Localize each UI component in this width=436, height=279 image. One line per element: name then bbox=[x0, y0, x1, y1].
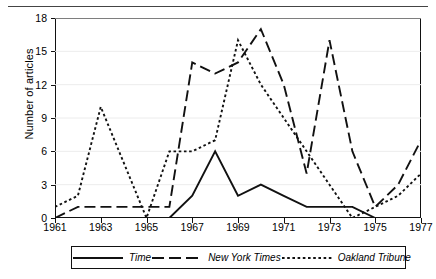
x-tick-label: 1977 bbox=[401, 222, 436, 233]
x-tick-mark bbox=[192, 218, 193, 223]
long-dash-line-swatch bbox=[151, 253, 203, 263]
solid-line-swatch bbox=[72, 253, 124, 263]
y-tick-label: 15 bbox=[21, 46, 47, 56]
x-tick-mark bbox=[330, 218, 331, 223]
x-tick-label: 1963 bbox=[81, 222, 121, 233]
dotted-line-swatch bbox=[281, 253, 333, 263]
x-tick-mark bbox=[375, 218, 376, 223]
series-line-oakland-tribune bbox=[55, 40, 421, 218]
legend-label-oakland-tribune: Oakland Tribune bbox=[338, 252, 411, 263]
legend-entry-new-york-times: New York Times bbox=[151, 252, 281, 263]
x-tick-mark bbox=[238, 218, 239, 223]
y-tick-label: 18 bbox=[21, 13, 47, 23]
x-tick-label: 1975 bbox=[355, 222, 395, 233]
x-tick-label: 1967 bbox=[172, 222, 212, 233]
plot-lines bbox=[55, 18, 421, 218]
series-line-new-york-times bbox=[55, 29, 421, 218]
chart-legend: Time New York Times Oakland Tribune bbox=[71, 246, 406, 269]
legend-label-time: Time bbox=[129, 252, 151, 263]
x-tick-mark bbox=[101, 218, 102, 223]
x-tick-mark bbox=[147, 218, 148, 223]
top-divider-rule bbox=[8, 6, 428, 7]
chart-figure: Number of articles 0369121518 1961196319… bbox=[0, 0, 436, 279]
legend-entry-time: Time bbox=[72, 252, 151, 263]
y-tick-label: 3 bbox=[21, 180, 47, 190]
x-tick-label: 1969 bbox=[218, 222, 258, 233]
y-tick-label: 6 bbox=[21, 146, 47, 156]
y-tick-label: 12 bbox=[21, 80, 47, 90]
x-tick-label: 1961 bbox=[35, 222, 75, 233]
x-tick-label: 1973 bbox=[310, 222, 350, 233]
x-tick-label: 1965 bbox=[127, 222, 167, 233]
legend-label-new-york-times: New York Times bbox=[208, 252, 281, 263]
x-tick-mark bbox=[284, 218, 285, 223]
x-tick-mark bbox=[55, 218, 56, 223]
x-tick-label: 1971 bbox=[264, 222, 304, 233]
y-tick-label: 9 bbox=[21, 113, 47, 123]
x-tick-mark bbox=[421, 218, 422, 223]
legend-entry-oakland-tribune: Oakland Tribune bbox=[281, 252, 411, 263]
